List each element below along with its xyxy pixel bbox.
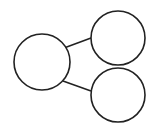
tree-diagram <box>0 0 155 130</box>
node-child-top <box>91 11 145 65</box>
edge-root-to-bottom <box>63 81 91 91</box>
edge-root-to-top <box>64 38 91 48</box>
node-root <box>14 34 70 90</box>
node-child-bottom <box>91 68 145 122</box>
